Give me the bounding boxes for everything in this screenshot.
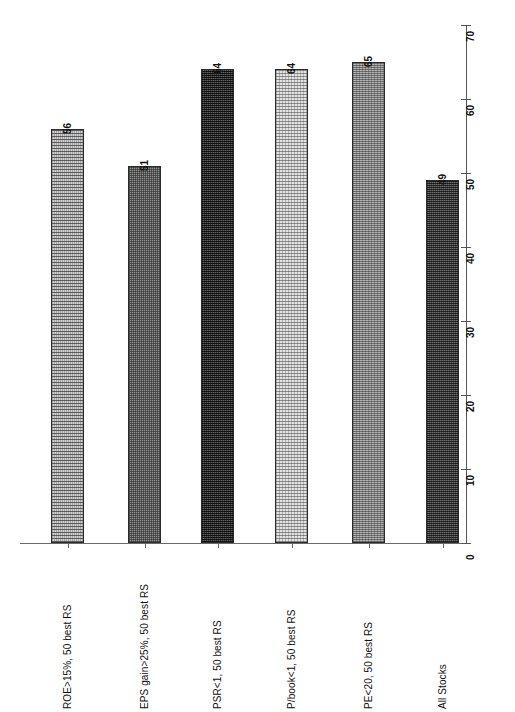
y-axis-line (466, 25, 467, 544)
y-axis-tick-label: 10 (465, 475, 476, 486)
x-axis-category-label: P/book<1, 50 best RS (286, 609, 297, 709)
bar-psr[interactable] (201, 69, 234, 543)
x-axis-tick (292, 543, 293, 548)
x-axis-tick (218, 543, 219, 548)
y-axis-tick (461, 99, 471, 100)
x-axis-category-label: PE<20, 50 best RS (363, 622, 374, 709)
y-axis-tick (461, 543, 471, 544)
bar-value-label: 64 (286, 63, 297, 74)
y-axis-tick-label: 50 (465, 179, 476, 190)
bar-all-stocks[interactable] (426, 180, 459, 543)
x-axis-baseline (20, 543, 467, 544)
bar-eps-gain[interactable] (128, 166, 161, 543)
x-axis-tick (145, 543, 146, 548)
bar-value-label: 65 (363, 56, 374, 67)
bar-value-label: 51 (139, 159, 150, 170)
y-axis-tick (461, 321, 471, 322)
y-axis-tick-label: 40 (465, 253, 476, 264)
y-axis-tick-label: 60 (465, 105, 476, 116)
x-axis-category-label: PSR<1, 50 best RS (212, 620, 223, 709)
y-axis-tick-label: 20 (465, 401, 476, 412)
y-axis-tick-label: 70 (465, 31, 476, 42)
y-axis-tick-label: 30 (465, 327, 476, 338)
bar-pe[interactable] (352, 62, 385, 543)
x-axis-tick (68, 543, 69, 548)
y-axis-tick (461, 25, 471, 26)
x-axis-tick (443, 543, 444, 548)
bar-roe[interactable] (51, 129, 84, 543)
x-axis-category-label: All Stocks (437, 664, 448, 709)
x-axis-tick (369, 543, 370, 548)
bar-value-label: 64 (212, 63, 223, 74)
y-axis-tick (461, 469, 471, 470)
bar-chart: 56 51 64 64 65 49 0 10 20 30 40 50 60 70 (0, 0, 515, 712)
bar-value-label: 49 (437, 174, 448, 185)
y-axis-tick (461, 395, 471, 396)
bar-pbook[interactable] (275, 69, 308, 543)
plot-area: 56 51 64 64 65 49 0 10 20 30 40 50 60 70 (0, 0, 470, 546)
y-axis-tick-label: 0 (465, 554, 476, 560)
y-axis-tick (461, 173, 471, 174)
x-axis-category-label: ROE>15%, 50 best RS (62, 605, 73, 709)
bar-value-label: 56 (62, 122, 73, 133)
y-axis-tick (461, 247, 471, 248)
x-axis-category-label: EPS gain>25%, 50 best RS (139, 584, 150, 709)
